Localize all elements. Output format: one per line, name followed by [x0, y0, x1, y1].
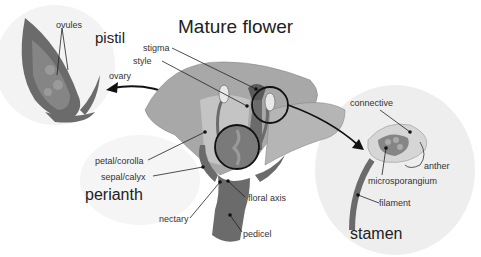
pistil-heading: pistil — [95, 30, 125, 45]
label-ovules: ovules — [56, 21, 82, 30]
label-microsporangium: microsporangium — [368, 177, 437, 186]
label-stigma: stigma — [143, 44, 170, 53]
label-ovary: ovary — [109, 72, 131, 81]
label-anther: anther — [424, 162, 450, 171]
stamen-heading: stamen — [350, 226, 402, 242]
label-style: style — [133, 57, 152, 66]
label-filament: filament — [379, 199, 411, 208]
label-sepal-calyx: sepal/calyx — [101, 173, 146, 182]
diagram-artwork — [0, 0, 481, 257]
label-nectary: nectary — [159, 215, 189, 224]
diagram-title: Mature flower — [178, 17, 293, 36]
label-petal-corolla: petal/corolla — [95, 157, 144, 166]
label-floral-axis: floral axis — [248, 194, 286, 203]
label-pedicel: pedicel — [243, 230, 272, 239]
label-connective: connective — [350, 99, 393, 108]
perianth-heading: perianth — [85, 187, 143, 203]
mature-flower-diagram: Mature flower pistil perianth stamen ovu… — [0, 0, 481, 257]
